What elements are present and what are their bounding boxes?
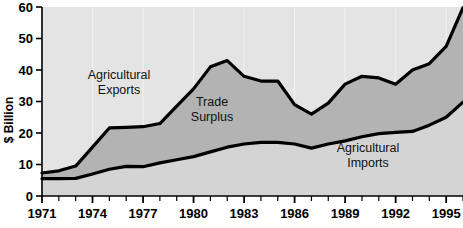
annotation-line-1: Agricultural xyxy=(88,68,151,82)
y-tick-label: 60 xyxy=(19,0,33,15)
annotation-line-1: Trade xyxy=(196,95,228,109)
y-tick-label: 20 xyxy=(19,126,33,141)
chart-canvas: 0102030405060 19711974197719801983198619… xyxy=(0,0,463,228)
annotation-line-2: Imports xyxy=(347,156,389,170)
annotation-line-2: Surplus xyxy=(191,110,233,124)
x-axis-ticks: 197119741977198019831986198919921995 xyxy=(28,196,463,221)
annotation-line-2: Exports xyxy=(98,83,140,97)
x-tick-label: 1986 xyxy=(280,206,309,221)
y-tick-label: 40 xyxy=(19,63,33,78)
x-tick-label: 1974 xyxy=(78,206,108,221)
x-tick-label: 1977 xyxy=(129,206,158,221)
y-axis-title: $ Billion xyxy=(2,97,16,144)
x-tick-label: 1989 xyxy=(331,206,360,221)
y-tick-label: 10 xyxy=(19,157,33,172)
trade-surplus-annotation: TradeSurplus xyxy=(191,95,233,124)
y-tick-label: 0 xyxy=(26,189,33,204)
annotation-line-1: Agricultural xyxy=(337,141,400,155)
agricultural-trade-chart: 0102030405060 19711974197719801983198619… xyxy=(0,0,463,228)
y-tick-label: 30 xyxy=(19,94,33,109)
x-tick-label: 1980 xyxy=(179,206,208,221)
x-tick-label: 1983 xyxy=(230,206,259,221)
x-tick-label: 1992 xyxy=(381,206,410,221)
x-tick-label: 1995 xyxy=(432,206,461,221)
x-tick-label: 1971 xyxy=(28,206,57,221)
y-axis-ticks: 0102030405060 xyxy=(19,0,42,204)
y-tick-label: 50 xyxy=(19,31,33,46)
